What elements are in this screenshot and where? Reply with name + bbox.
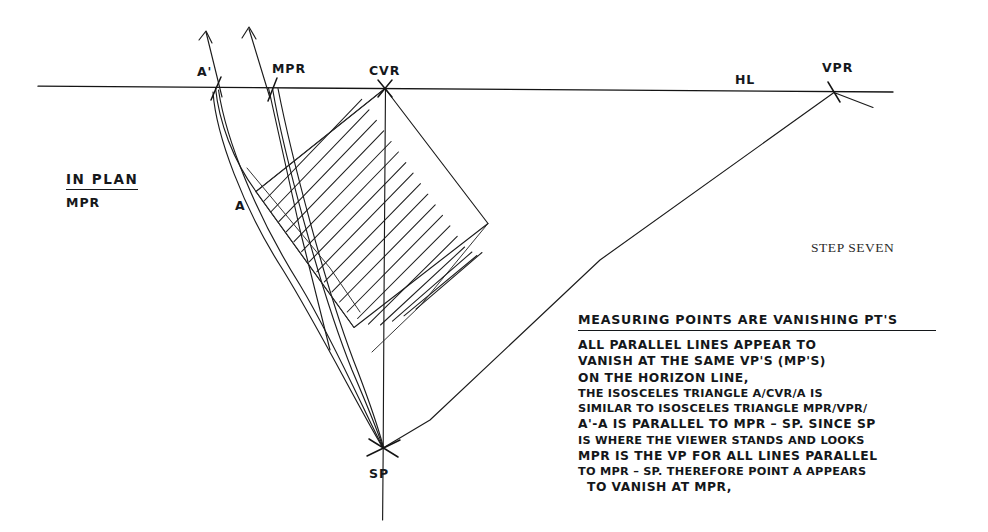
- in-plan-subtitle: MPR: [66, 195, 138, 210]
- note-line: SIMILAR TO ISOSCELES TRIANGLE MPR/VPR/: [578, 401, 950, 416]
- label-cvr: CVR: [369, 63, 400, 78]
- note-line: THE ISOSCELES TRIANGLE A/CVR/A IS: [578, 386, 950, 401]
- explanatory-note: MEASURING POINTS ARE VANISHING PT'S ALL …: [578, 310, 950, 495]
- note-line: A'-A IS PARALLEL TO MPR – SP. SINCE SP: [578, 416, 950, 432]
- note-line: TO MPR – SP. THEREFORE POINT A APPEARS: [578, 464, 950, 479]
- drawing-sheet: A' MPR CVR HL VPR A SP IN PLAN MPR STEP …: [0, 0, 988, 532]
- aprime-to-a-arc: [216, 88, 257, 192]
- label-mpr: MPR: [272, 61, 306, 76]
- arrow-head-aprime: [199, 31, 212, 43]
- label-sp: SP: [369, 466, 389, 481]
- in-plan-title: IN PLAN: [66, 171, 138, 190]
- label-hl: HL: [735, 72, 755, 87]
- mpr-second-line: [278, 89, 384, 448]
- note-line: ALL PARALLEL LINES APPEAR TO: [578, 337, 950, 353]
- note-body: ALL PARALLEL LINES APPEAR TO VANISH AT T…: [578, 337, 950, 495]
- plane-right-edge-ext: [372, 224, 488, 353]
- note-line: TO VANISH AT MPR,: [578, 479, 950, 495]
- label-a-prime: A': [197, 64, 212, 79]
- in-plan-note: IN PLAN MPR: [66, 170, 138, 210]
- note-line: IS WHERE THE VIEWER STANDS AND LOOKS: [578, 433, 950, 448]
- label-vpr: VPR: [822, 60, 853, 75]
- label-a: A: [235, 198, 246, 213]
- note-line: ON THE HORIZON LINE,: [578, 370, 950, 386]
- note-heading: MEASURING POINTS ARE VANISHING PT'S: [578, 312, 936, 331]
- note-line: VANISH AT THE SAME VP'S (MP'S): [578, 353, 950, 369]
- step-caption: STEP SEVEN: [811, 240, 894, 256]
- aprime-sweep-to-sp: [219, 90, 384, 448]
- note-line: MPR IS THE VP FOR ALL LINES PARALLEL: [578, 448, 950, 464]
- hatched-plane: [256, 89, 488, 328]
- horizon-line: [38, 86, 893, 92]
